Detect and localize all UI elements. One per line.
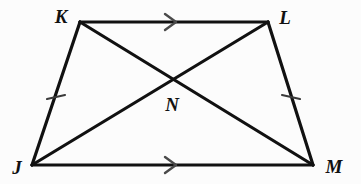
vertex-label-m: M [326,157,343,176]
vertex-label-j: J [12,158,22,177]
edge-jk [32,22,80,165]
vertex-label-n: N [165,95,179,114]
vertex-label-k: K [55,7,68,26]
diagonal-km [80,22,313,165]
figure-canvas [0,0,361,184]
diagonal-jl [32,22,268,165]
geometry-figure: K L J M N [0,0,361,184]
vertex-label-l: L [279,8,291,27]
edge-lm [268,22,313,165]
